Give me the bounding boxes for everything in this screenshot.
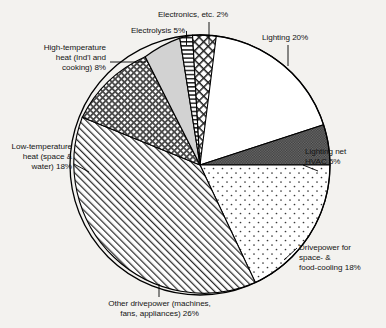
label-drivepower-cooling: Drivepower for space- & food-cooling 18% (299, 243, 385, 274)
label-electrolysis: Electrolysis 5% (108, 26, 208, 36)
chart-canvas: Electronics, etc. 2% Electrolysis 5% Hig… (0, 0, 386, 328)
label-low-temperature-heat: Low-temperature heat (space & water) 18% (2, 142, 72, 173)
label-lighting: Lighting 20% (262, 33, 362, 43)
label-lighting-net-hvac: Lighting net HVAC 5% (305, 147, 385, 167)
label-high-temperature-heat: High-temperature heat (Ind'l and cooking… (12, 43, 106, 74)
label-other-drivepower: Other drivepower (machines, fans, applia… (72, 299, 247, 319)
label-electronics: Electronics, etc. 2% (126, 10, 260, 20)
pie-slices (74, 35, 330, 293)
